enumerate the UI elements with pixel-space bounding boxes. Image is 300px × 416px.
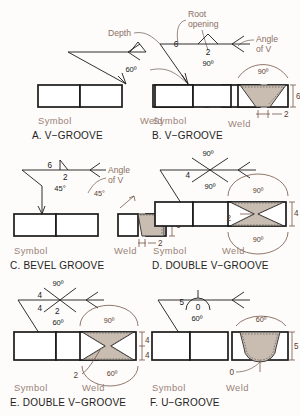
panel-d-weld-depth: 4 — [294, 209, 299, 218]
panel-a-symbol-plates — [38, 85, 122, 107]
panel-e-weld-angle-bottom: 60º — [107, 369, 118, 378]
panel-e-symbol-root: 2 — [55, 307, 60, 316]
panel-d-symbol-angle-bottom: 90º — [204, 182, 215, 191]
panel-f-symbol-plates — [152, 332, 228, 360]
panel-c-symbol-plates — [14, 214, 98, 236]
callout-root-opening-line1: Root — [188, 9, 207, 19]
panel-d-label-weld: Weld — [222, 245, 245, 256]
panel-a-weld-symbol: 60º — [68, 42, 146, 84]
panel-b-weld-angle: 90º — [258, 67, 269, 76]
panel-f-caption: F. U−GROOVE — [150, 397, 220, 408]
panel-f: 5 0 60º 60º 5 0 Symbol Weld F. U−GROOVE — [150, 290, 299, 408]
panel-e-weld-root: 2 — [73, 371, 78, 380]
panel-f-weld-angle: 60º — [256, 315, 267, 324]
panel-d-symbol-plates — [155, 202, 231, 226]
panel-c-callout-angle-line1: Angle — [108, 165, 130, 175]
panel-f-symbol-angle: 60º — [191, 314, 202, 323]
panel-b-symbol-plates — [155, 85, 231, 107]
panel-d-caption: D. DOUBLE V−GROOVE — [152, 260, 269, 271]
panel-e-caption: E. DOUBLE V−GROOVE — [10, 397, 126, 408]
panel-d-weld-angle-top: 90º — [253, 186, 264, 195]
panel-d-label-symbol: Symbol — [153, 245, 187, 256]
panel-d-symbol-depth: 4 — [185, 171, 190, 180]
panel-e-weld-angle-top: 90º — [104, 316, 115, 325]
panel-c-weld-symbol: 6 2 45° — [22, 160, 106, 214]
callout-angle-of-v-line1: Angle — [256, 34, 278, 44]
panel-c-label-weld: Weld — [114, 245, 137, 256]
panel-f-label-symbol: Symbol — [152, 382, 186, 393]
panel-b-caption: B. V−GROOVE — [152, 130, 223, 141]
panel-f-symbol-depth: 5 — [179, 298, 184, 307]
callout-angle-of-v-line2: of V — [256, 44, 272, 54]
panel-e-weld-depth-top: 4 — [145, 336, 150, 345]
panel-b-weld-depth: 6 — [296, 92, 300, 101]
panel-a-label-symbol: Symbol — [38, 115, 72, 126]
panel-c-weld-angle: 45° — [94, 189, 105, 198]
panel-c-symbol-angle: 45° — [54, 184, 65, 193]
panel-f-weld-depth: 5 — [294, 342, 299, 351]
panel-e-weld-plates: 90º 60º 4 4 2 — [73, 305, 150, 386]
panel-e-symbol-angle-bottom: 60º — [52, 318, 63, 327]
panel-e: 90º 4 4 2 60º 90º 60º 4 4 2 Symbol Weld … — [10, 279, 150, 408]
panel-d-symbol-angle-top: 90º — [202, 149, 213, 158]
panel-b-label-symbol: Symbol — [153, 115, 187, 126]
figure-canvas: 60º Symbol Weld A. V−GROOVE Depth Root o… — [0, 0, 300, 416]
panel-e-label-symbol: Symbol — [14, 382, 48, 393]
callout-root-opening-line2: opening — [188, 19, 219, 29]
panel-c-callout-angle-line2: of V — [108, 175, 124, 185]
panel-e-symbol-depth-top: 4 — [37, 291, 42, 300]
panel-c-symbol-depth: 6 — [47, 161, 52, 170]
panel-f-label-weld: Weld — [226, 382, 249, 393]
panel-b-symbol-depth: 6 — [174, 40, 179, 49]
panel-f-weld-plates: 60º 5 0 — [229, 315, 299, 377]
panel-a-caption: A. V−GROOVE — [32, 130, 103, 141]
panel-e-symbol-depth-bottom: 4 — [37, 304, 42, 313]
panel-d-weld-root: 2 — [226, 214, 231, 223]
panel-e-label-weld: Weld — [82, 382, 105, 393]
panel-c-symbol-root: 2 — [63, 173, 68, 182]
panel-d-weld-plates: 90º 90º 4 2 — [226, 174, 299, 254]
panel-d-weld-angle-bottom: 90º — [253, 235, 264, 244]
panel-b-weld-plates: 90º 6 2 — [238, 65, 300, 119]
panel-f-symbol-root: 0 — [196, 303, 201, 312]
panel-b: Depth Root opening Angle of V 6 2 90º 90… — [108, 9, 300, 141]
panel-b-symbol-angle: 90º — [202, 59, 213, 68]
panel-b-label-weld: Weld — [228, 118, 251, 129]
panel-c-caption: C. BEVEL GROOVE — [10, 260, 104, 271]
panel-b-weld-root: 2 — [284, 110, 289, 119]
panel-b-symbol-root: 2 — [206, 48, 211, 57]
panel-c-label-symbol: Symbol — [14, 245, 48, 256]
panel-e-weld-depth-bottom: 4 — [145, 351, 150, 360]
callout-depth: Depth — [108, 28, 131, 38]
panel-e-symbol-angle-top: 90º — [52, 279, 63, 288]
panel-d: 90º 4 90º 90º 90º 4 2 Symbol Weld D. DOU… — [152, 149, 299, 271]
welding-symbol-figure: 60º Symbol Weld A. V−GROOVE Depth Root o… — [0, 0, 300, 416]
panel-f-weld-root: 0 — [229, 368, 234, 377]
panel-a-symbol-angle: 60º — [125, 65, 136, 74]
